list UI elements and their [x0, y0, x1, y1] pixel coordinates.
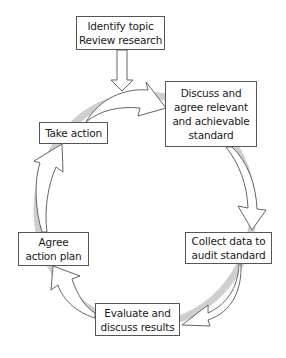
- evaluate-results-box: Evaluate and discuss results: [95, 303, 180, 336]
- discuss-standard-label: Discuss and agree relevant and achievabl…: [172, 86, 249, 142]
- evaluate-results-label: Evaluate and discuss results: [101, 306, 175, 334]
- agree-action-plan-label: Agree action plan: [25, 235, 81, 263]
- identify-topic-box: Identify topic Review research: [76, 16, 165, 50]
- discuss-standard-box: Discuss and agree relevant and achievabl…: [165, 81, 257, 147]
- arrow-take-to-discuss-icon: [86, 82, 166, 122]
- arrow-discuss-to-collect-icon: [226, 147, 266, 230]
- collect-data-box: Collect data to audit standard: [185, 232, 272, 264]
- take-action-label: Take action: [45, 126, 102, 140]
- collect-data-label: Collect data to audit standard: [192, 234, 266, 262]
- identify-topic-label: Identify topic Review research: [79, 19, 162, 47]
- agree-action-plan-box: Agree action plan: [18, 232, 89, 266]
- entry-down-arrow-icon: [111, 50, 133, 91]
- take-action-box: Take action: [39, 122, 108, 144]
- arrow-evaluate-to-agree-icon: [51, 266, 95, 318]
- arrow-agree-to-take-icon: [34, 144, 63, 232]
